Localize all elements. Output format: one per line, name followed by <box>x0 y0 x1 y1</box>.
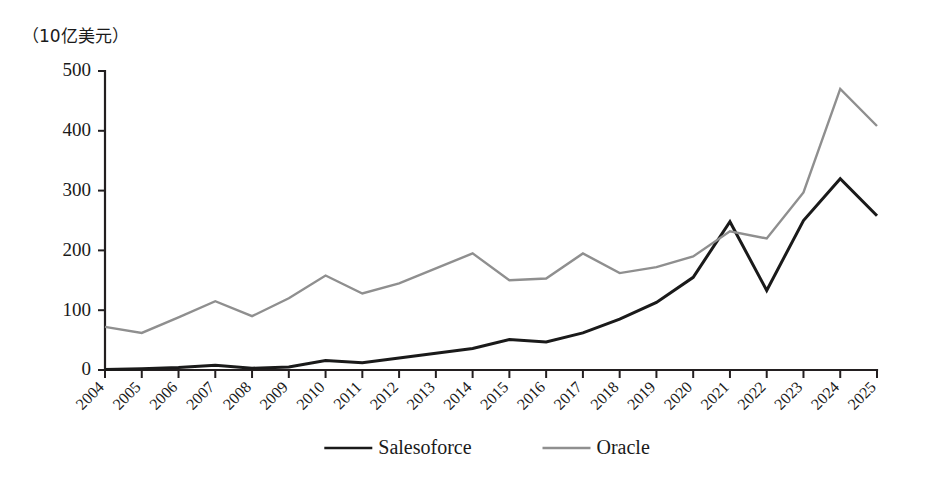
x-axis-tick-label: 2024 <box>808 378 843 413</box>
x-axis-label-group: 2004200520062007200820092010201120122013… <box>72 378 879 413</box>
x-axis-tick-label: 2020 <box>661 378 696 413</box>
x-axis-tick-label: 2006 <box>146 378 181 413</box>
x-axis-tick-label: 2005 <box>109 378 144 413</box>
y-axis-tick-label: 200 <box>63 239 92 260</box>
x-axis-tick-label: 2015 <box>477 378 512 413</box>
x-axis-tick-label: 2008 <box>220 378 255 413</box>
x-axis-tick-label: 2007 <box>183 378 218 413</box>
series-line-salesoforce <box>105 179 877 370</box>
y-axis-unit-label: （10亿美元） <box>22 22 129 47</box>
x-axis-tick-label: 2016 <box>514 378 549 413</box>
legend-label: Salesoforce <box>378 436 471 458</box>
line-chart: 0100200300400500 20042005200620072008200… <box>0 0 926 481</box>
y-axis-tick-label: 300 <box>63 179 92 200</box>
x-axis-tick-label: 2010 <box>293 378 328 413</box>
x-axis-tick-label: 2023 <box>771 378 806 413</box>
x-axis-tick-label: 2012 <box>367 378 402 413</box>
x-axis-tick-label: 2019 <box>624 378 659 413</box>
x-axis-tick-label: 2011 <box>330 378 364 412</box>
x-axis-tick-label: 2009 <box>256 378 291 413</box>
series-group <box>105 89 877 369</box>
y-axis-tick-group: 0100200300400500 <box>63 59 106 379</box>
chart-container: （10亿美元） 0100200300400500 200420052006200… <box>0 0 926 481</box>
y-axis-tick-label: 0 <box>82 358 92 379</box>
x-axis-tick-label: 2025 <box>844 378 879 413</box>
x-axis-tick-label: 2018 <box>587 378 622 413</box>
x-axis-tick-label: 2021 <box>697 378 732 413</box>
x-axis-tick-label: 2013 <box>403 378 438 413</box>
series-line-oracle <box>105 89 877 333</box>
x-axis-tick-label: 2017 <box>550 378 585 413</box>
chart-legend: SalesoforceOracle <box>324 436 650 458</box>
y-axis-tick-label: 100 <box>63 299 92 320</box>
y-axis-tick-label: 500 <box>63 59 92 80</box>
y-axis-tick-label: 400 <box>63 119 92 140</box>
legend-label: Oracle <box>597 436 650 458</box>
x-axis-tick-group <box>105 370 877 378</box>
x-axis-tick-label: 2004 <box>72 378 107 413</box>
x-axis-tick-label: 2014 <box>440 378 475 413</box>
x-axis-tick-label: 2022 <box>734 378 769 413</box>
